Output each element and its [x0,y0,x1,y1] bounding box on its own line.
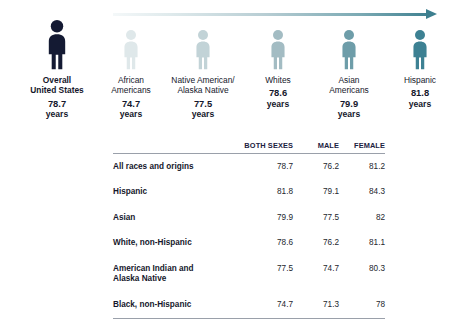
table-cell-label: White, non-Hispanic [113,231,231,257]
table-cell-both-sexes: 78.7 [231,154,293,180]
pictogram-value: 78.7 [48,98,66,109]
pictogram-unit: years [46,109,68,119]
pictogram-label: Asian Americans [329,75,369,96]
table-cell-both-sexes: 78.6 [231,231,293,257]
pictogram-unit: years [192,109,214,119]
table-cell-both-sexes: 77.5 [231,256,293,292]
table-body: All races and origins78.776.281.2Hispani… [113,154,385,319]
table-cell-male: 71.3 [293,292,339,318]
table-cell-female: 81.2 [339,154,385,180]
table-cell-both-sexes: 79.9 [231,205,293,231]
pictogram-unit: years [409,99,431,109]
table-cell-label: Asian [113,205,231,231]
person-figure-wrap [408,24,432,70]
table-header: BOTH SEXES MALE FEMALE [113,141,385,154]
column-header-label [113,141,231,154]
pictogram-unit: years [338,109,360,119]
pictogram-value: 78.6 [269,87,287,98]
arrow-line-icon [113,13,431,16]
person-figure-wrap [119,24,143,70]
table: BOTH SEXES MALE FEMALE All races and ori… [113,141,385,319]
pictogram-column-5: Hispanic81.8years [390,24,450,109]
person-icon [191,29,215,70]
table-row: Hispanic81.879.184.3 [113,180,385,206]
pictogram-value: 79.9 [340,98,358,109]
person-icon [42,19,72,70]
table-cell-female: 78 [339,292,385,318]
table-cell-male: 76.2 [293,231,339,257]
table-row: Asian79.977.582 [113,205,385,231]
pictogram-value: 77.5 [194,98,212,109]
table-cell-label: Hispanic [113,180,231,206]
pictogram-label: Whites [265,75,291,85]
person-icon [337,29,361,70]
pictogram-value: 74.7 [122,98,140,109]
person-icon [119,29,143,70]
pictogram-column-0: Overall United States78.7years [14,24,100,119]
column-header-female: FEMALE [339,141,385,154]
pictogram-chart: Overall United States78.7yearsAfrican Am… [0,24,450,136]
pictogram-column-1: African Americans74.7years [101,24,161,119]
table-cell-female: 82 [339,205,385,231]
life-expectancy-table: BOTH SEXES MALE FEMALE All races and ori… [113,141,385,319]
pictogram-column-4: Asian Americans79.9years [314,24,384,119]
person-figure-wrap [266,24,290,70]
table-cell-male: 76.2 [293,154,339,180]
table-row: American Indian and Alaska Native77.574.… [113,256,385,292]
table-row: All races and origins78.776.281.2 [113,154,385,180]
arrow-head-icon [426,9,437,19]
pictogram-value: 81.8 [411,87,429,98]
column-header-both-sexes: BOTH SEXES [231,141,293,154]
person-figure-wrap [337,24,361,70]
person-icon [266,29,290,70]
table-cell-female: 84.3 [339,180,385,206]
pictogram-column-3: Whites78.6years [249,24,307,109]
table-cell-both-sexes: 74.7 [231,292,293,318]
table-cell-label: All races and origins [113,154,231,180]
column-header-male: MALE [293,141,339,154]
table-cell-male: 79.1 [293,180,339,206]
table-cell-label: Black, non-Hispanic [113,292,231,318]
pictogram-label: Native American/ Alaska Native [171,75,234,96]
table-cell-both-sexes: 81.8 [231,180,293,206]
table-cell-female: 80.3 [339,256,385,292]
pictogram-unit: years [120,109,142,119]
pictogram-label: Overall United States [30,75,84,96]
table-row: Black, non-Hispanic74.771.378 [113,292,385,318]
pictogram-label: African Americans [111,75,151,96]
person-icon [408,29,432,70]
table-cell-label: American Indian and Alaska Native [113,256,231,292]
pictogram-unit: years [267,99,289,109]
table-header-row: BOTH SEXES MALE FEMALE [113,141,385,154]
table-cell-male: 74.7 [293,256,339,292]
table-cell-male: 77.5 [293,205,339,231]
pictogram-label: Hispanic [404,75,436,85]
table-row: White, non-Hispanic78.676.281.1 [113,231,385,257]
person-figure-wrap [42,24,72,70]
person-figure-wrap [191,24,215,70]
table-cell-female: 81.1 [339,231,385,257]
pictogram-column-2: Native American/ Alaska Native77.5years [157,24,249,119]
